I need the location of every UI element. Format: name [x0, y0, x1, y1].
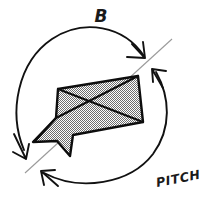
pitch-diagram-svg: B PITCH — [0, 0, 213, 204]
diagram-root: B PITCH — [0, 0, 213, 204]
label-b: B — [95, 6, 108, 26]
arrowhead-down-right-icon — [127, 42, 145, 58]
arrowhead-down-left-icon — [13, 134, 29, 159]
label-pitch: PITCH — [155, 167, 202, 190]
aircraft-body-group — [33, 76, 143, 156]
